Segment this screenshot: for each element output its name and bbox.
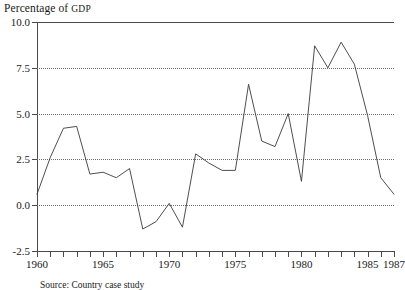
- x-axis-tick: [63, 251, 64, 257]
- x-axis-tick: [368, 251, 369, 257]
- x-axis-tick: [156, 251, 157, 257]
- x-axis-tick: [275, 251, 276, 257]
- x-axis-tick: [116, 251, 117, 257]
- plot-area: 10.07.55.02.50.0-2.5 1960196519701975198…: [37, 22, 394, 251]
- x-axis-tick: [182, 251, 183, 257]
- x-axis-tick: [50, 251, 51, 257]
- x-axis-tick: [288, 251, 289, 257]
- x-axis-tick: [262, 251, 263, 257]
- x-axis-label: 1980: [290, 258, 312, 270]
- x-axis-tick: [341, 251, 342, 257]
- x-axis-tick: [77, 251, 78, 257]
- y-axis-label: 2.5: [16, 153, 30, 165]
- x-axis-tick: [354, 251, 355, 257]
- x-axis-label: 1960: [26, 258, 48, 270]
- data-series-line: [37, 22, 394, 251]
- series-polyline: [37, 42, 394, 229]
- x-axis-tick: [196, 251, 197, 257]
- y-axis-label: 0.0: [16, 199, 30, 211]
- x-axis-tick: [381, 251, 382, 257]
- y-axis-label: 5.0: [16, 108, 30, 120]
- x-axis-label: 1985: [357, 258, 379, 270]
- chart-title: Percentage of GDP: [4, 2, 91, 14]
- x-axis-tick: [130, 251, 131, 257]
- source-note: Source: Country case study: [40, 280, 144, 290]
- x-axis-tick: [37, 251, 38, 257]
- x-axis-label: 1975: [224, 258, 246, 270]
- x-axis-tick: [222, 251, 223, 257]
- y-axis-label: 10.0: [11, 16, 30, 28]
- x-axis-tick: [328, 251, 329, 257]
- x-axis-tick: [235, 251, 236, 257]
- x-axis-tick: [90, 251, 91, 257]
- x-axis-tick: [315, 251, 316, 257]
- x-axis-tick: [209, 251, 210, 257]
- x-axis-tick: [394, 251, 395, 257]
- x-axis-label: 1970: [158, 258, 180, 270]
- chart-title-main: Percentage of: [4, 2, 71, 14]
- x-axis-tick: [143, 251, 144, 257]
- x-axis-tick: [169, 251, 170, 257]
- x-axis-label: 1987: [383, 258, 405, 270]
- x-axis-tick: [301, 251, 302, 257]
- x-axis-tick: [103, 251, 104, 257]
- x-axis-label: 1965: [92, 258, 114, 270]
- x-axis-tick: [249, 251, 250, 257]
- y-axis-label: 7.5: [16, 62, 30, 74]
- chart-title-smallcaps: GDP: [71, 4, 91, 14]
- y-axis-label: -2.5: [13, 245, 30, 257]
